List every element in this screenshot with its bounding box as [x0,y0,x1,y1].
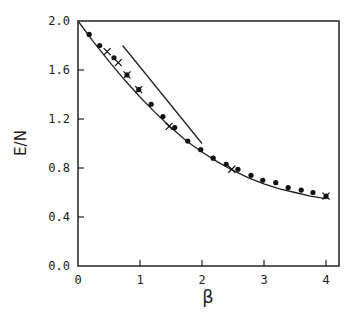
dot-marker [211,156,216,161]
x-axis-ticks: 01234 [74,260,329,287]
straight-line-line [123,46,202,144]
chart: 01234 0.00.40.81.21.62.0 β E/N [0,0,348,321]
x-tick-label: 3 [260,273,267,287]
plus-marker [166,123,173,130]
x-tick-label: 1 [136,273,143,287]
plot-lines [78,21,326,199]
y-tick-label: 0.0 [48,259,70,273]
y-tick-label: 1.6 [48,63,70,77]
dot-marker [198,147,203,152]
dot-marker [248,173,253,178]
y-axis-label: E/N [12,130,30,156]
dot-marker [299,187,304,192]
dot-marker [310,190,315,195]
plus-marker [104,48,111,55]
dot-marker [160,114,165,119]
x-tick-label: 2 [198,273,205,287]
dot-marker [235,167,240,172]
plot-frame [78,21,339,266]
dot-marker [97,43,102,48]
plus-marker [228,166,235,173]
dot-marker [185,138,190,143]
y-tick-label: 1.2 [48,112,70,126]
y-tick-label: 0.4 [48,210,70,224]
dot-marker [273,180,278,185]
dot-marker [286,185,291,190]
dot-marker [149,102,154,107]
y-tick-label: 0.8 [48,161,70,175]
plus-marker [115,59,122,66]
dot-marker [87,32,92,37]
y-tick-label: 2.0 [48,14,70,28]
x-tick-label: 4 [322,273,329,287]
x-axis-label: β [202,286,214,307]
x-tick-label: 0 [74,273,81,287]
dot-marker [260,178,265,183]
curve-line [78,21,326,199]
plot-markers [87,32,330,200]
